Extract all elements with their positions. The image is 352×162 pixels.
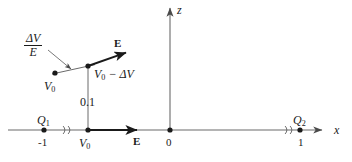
x-axis-label: x	[334, 124, 339, 136]
x-tick-one: 1	[298, 137, 304, 148]
v0-axis-subscript: 0	[86, 142, 90, 151]
e-vector-upper-label: E	[114, 38, 121, 49]
point-v0-axis-label: V0	[79, 137, 90, 151]
dot-v0-minus-dv	[85, 63, 90, 68]
q1-subscript: 1	[46, 119, 50, 128]
dot-v0-axis	[85, 127, 90, 132]
q2-symbol: Q	[293, 113, 302, 127]
dot-v0-upper-left	[52, 70, 57, 75]
e-vector-axis-label: E	[133, 136, 140, 147]
physics-diagram-canvas: ΔV E E E V0 V0 − ΔV 0.1 V0 Q1 -1 0 Q2 1 …	[0, 0, 352, 162]
dot-origin	[167, 127, 172, 132]
x-tick-zero: 0	[166, 137, 172, 148]
charge-q2-label: Q2	[293, 114, 306, 128]
e-denominator: E	[24, 45, 42, 59]
charge-q1-label: Q1	[37, 114, 50, 128]
e-vector-upper-line	[88, 53, 126, 66]
q1-symbol: Q	[37, 113, 46, 127]
z-axis-label: z	[177, 4, 182, 16]
point-v0-upper-left-label: V0	[44, 80, 55, 94]
x-tick-minus-one: -1	[38, 137, 47, 148]
q2-subscript: 2	[302, 119, 306, 128]
annotation-leader-line	[48, 50, 71, 69]
v0-upper-left-subscript: 0	[51, 85, 55, 94]
delta-v-numerator: ΔV	[24, 32, 42, 45]
spacing-label: 0.1	[80, 96, 95, 108]
delta-v-over-e-annotation: ΔV E	[24, 32, 42, 59]
point-v0-minus-dv-label: V0 − ΔV	[94, 68, 134, 82]
v0-minus-dv-suffix: − ΔV	[105, 67, 133, 81]
